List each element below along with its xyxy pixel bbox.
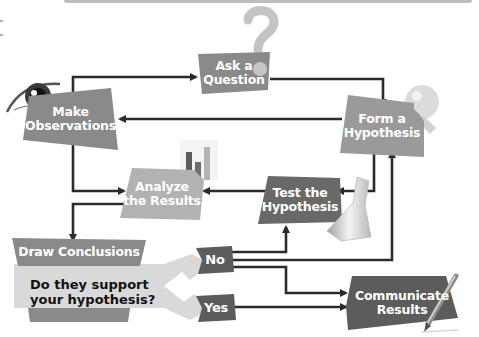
node-yes: Yes (196, 294, 236, 322)
node-label-line1: Ask a (215, 59, 252, 73)
question-line2: your hypothesis? (30, 292, 155, 307)
node-label-line2: the Results (123, 194, 201, 208)
node-make-observations: Make Observations (23, 88, 118, 150)
node-label-line1: Communicate (355, 289, 449, 303)
question-line1: Do they support (30, 277, 155, 292)
node-form-hypothesis: Form a Hypothesis (340, 95, 424, 157)
node-label-line2: Question (203, 73, 265, 87)
node-label-line1: Form a (358, 112, 405, 126)
node-label-line2: Observations (25, 119, 116, 133)
node-label-line2: Hypothesis (344, 126, 421, 140)
node-label-line1: Make (52, 105, 89, 119)
node-no: No (196, 246, 234, 274)
node-label-line1: Test the (273, 186, 328, 200)
node-label-line1: Analyze (135, 180, 189, 194)
decision-question: Do they support your hypothesis? (30, 277, 155, 307)
node-label: No (205, 253, 224, 267)
node-label: Yes (204, 301, 228, 315)
node-analyze-results: Analyze the Results (120, 168, 204, 220)
node-draw-conclusions: Draw Conclusions (12, 238, 146, 266)
draw-conclusions-base (28, 308, 130, 322)
node-label-line2: Hypothesis (262, 200, 339, 214)
node-label: Draw Conclusions (18, 245, 140, 259)
node-ask-question: Ask a Question (198, 52, 270, 94)
node-label-line2: Results (377, 303, 428, 317)
